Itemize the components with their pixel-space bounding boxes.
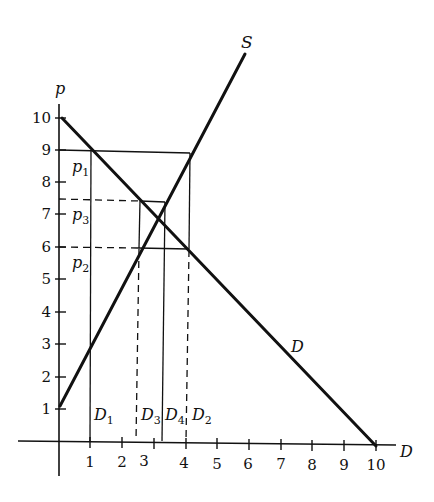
svg-text:7: 7 (276, 455, 286, 473)
price-labels: p1 p3 p2 (72, 157, 89, 275)
d3-label: D3 (140, 405, 161, 427)
d1-line (90, 150, 91, 441)
svg-text:9: 9 (41, 141, 51, 159)
svg-text:5: 5 (212, 455, 222, 473)
d4-label: D4 (164, 405, 185, 427)
svg-text:2: 2 (41, 368, 51, 386)
d3-upper-line (139, 201, 140, 248)
svg-text:10: 10 (366, 456, 385, 474)
svg-text:4: 4 (41, 303, 51, 321)
x-axis (18, 441, 396, 445)
svg-text:6: 6 (41, 238, 51, 256)
svg-text:7: 7 (41, 205, 51, 223)
svg-text:3: 3 (41, 335, 51, 353)
p1-label: p1 (72, 157, 89, 179)
d2-upper-line (189, 153, 190, 249)
svg-text:8: 8 (307, 456, 317, 474)
supply-curve (60, 54, 245, 406)
demand-label: D (290, 337, 304, 356)
svg-text:5: 5 (41, 270, 51, 288)
y-ticks (55, 118, 66, 409)
p3-dashed-line (59, 199, 140, 201)
p2-label: p2 (72, 253, 89, 275)
d1-label: D1 (93, 405, 114, 427)
p2-dashed-line (59, 247, 138, 248)
svg-text:6: 6 (243, 455, 253, 473)
svg-text:3: 3 (139, 452, 149, 470)
d2-label: D2 (191, 405, 212, 427)
svg-text:1: 1 (41, 400, 51, 418)
svg-text:9: 9 (339, 456, 349, 474)
y-tick-labels: 10 9 8 7 6 5 4 3 2 1 (32, 109, 51, 418)
d2-dashed-line (186, 250, 189, 441)
svg-text:4: 4 (179, 454, 189, 472)
x-axis-label: D (399, 442, 413, 461)
curves (60, 54, 376, 446)
quantity-labels: D1 D3 D4 D2 (93, 405, 212, 427)
svg-text:2: 2 (117, 453, 127, 471)
x-tick-labels: 1 2 3 4 5 6 7 8 9 10 (85, 452, 385, 474)
p1-line (59, 150, 190, 153)
p2-solid-line (138, 248, 189, 249)
svg-text:1: 1 (85, 453, 95, 471)
y-axis-label: p (55, 79, 65, 98)
p3-label: p3 (72, 205, 89, 227)
demand-curve (62, 118, 376, 446)
d3-dashed-line (136, 249, 139, 441)
supply-label: S (241, 32, 253, 52)
svg-text:10: 10 (32, 109, 51, 127)
cobweb-diagram: 10 9 8 7 6 5 4 3 2 1 1 2 3 4 5 6 7 8 9 1… (0, 0, 434, 502)
svg-text:8: 8 (41, 173, 51, 191)
